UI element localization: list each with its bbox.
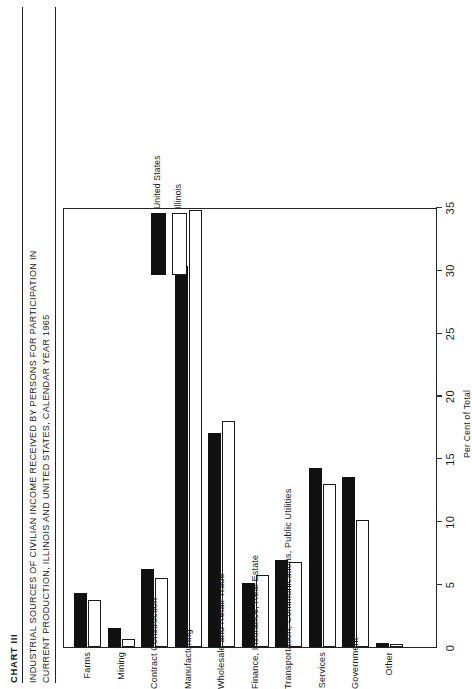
bar-united-states [175,266,188,647]
bar-illinois [88,601,101,648]
legend-entry: United States [148,179,170,275]
bar-illinois [323,484,336,647]
legend-swatch-united-states [151,213,166,275]
bar-illinois [189,210,202,647]
axis-tick-label-10: 10 [444,516,456,529]
legend-label: United States [152,155,162,209]
axis-tick-label-20: 20 [444,390,456,403]
category-label: Manufacturing [183,652,193,689]
axis-title: Per Cent of Total [462,390,472,458]
category-label: Finance, Insurance, Real Estate [250,652,260,689]
category-label: Transportation, Communications, Public U… [283,652,293,689]
bar-illinois [356,520,369,647]
bar-united-states [108,628,121,647]
category-label: Farms [82,652,92,689]
axis-tick-25 [436,333,442,334]
axis-tick-label-15: 15 [444,453,456,466]
category-label: Services [317,652,327,689]
caption-line-1: INDUSTRIAL SOURCES OF CIVILIAN INCOME RE… [27,5,40,683]
axis-tick-label-35: 35 [444,202,456,215]
bar-group [342,207,372,647]
legend-entry: Illinois [169,179,191,275]
bar-united-states [342,477,355,647]
bar-united-states [74,593,87,647]
bar-group [108,207,138,647]
chart-caption: INDUSTRIAL SOURCES OF CIVILIAN INCOME RE… [27,5,52,683]
axis-tick-label-5: 5 [444,582,456,588]
axis-tick-35 [436,207,442,208]
category-label: Contract Construction [149,652,159,689]
axis-tick-5 [436,584,442,585]
axis-tick-10 [436,521,442,522]
axis-tick-label-25: 25 [444,327,456,340]
bar-group [309,207,339,647]
category-label: Mining [116,652,126,689]
axis-tick-label-30: 30 [444,264,456,277]
category-label: Wholesale and Retail Trade [216,652,226,689]
axis-tick-label-0: 0 [444,645,456,651]
chart-number-label: CHART III [8,634,19,683]
value-axis-line [436,207,437,648]
axis-tick-30 [436,270,442,271]
bar-illinois [122,639,135,647]
bar-united-states [376,643,389,647]
bar-united-states [309,469,322,648]
caption-line-2: CURRENT PRODUCTION, ILLINOIS AND UNITED … [40,5,53,683]
bar-group [376,207,406,647]
axis-tick-20 [436,395,442,396]
header-rule-bottom [55,7,56,683]
bar-group [74,207,104,647]
bar-illinois [390,645,403,648]
legend-swatch-illinois [172,213,187,275]
category-label: Other [384,652,394,689]
category-label: Government [350,652,360,689]
legend-label: Illinois [173,184,183,209]
axis-tick-15 [436,458,442,459]
chart-legend: United StatesIllinois [148,179,200,275]
header-rule-top [22,7,23,683]
